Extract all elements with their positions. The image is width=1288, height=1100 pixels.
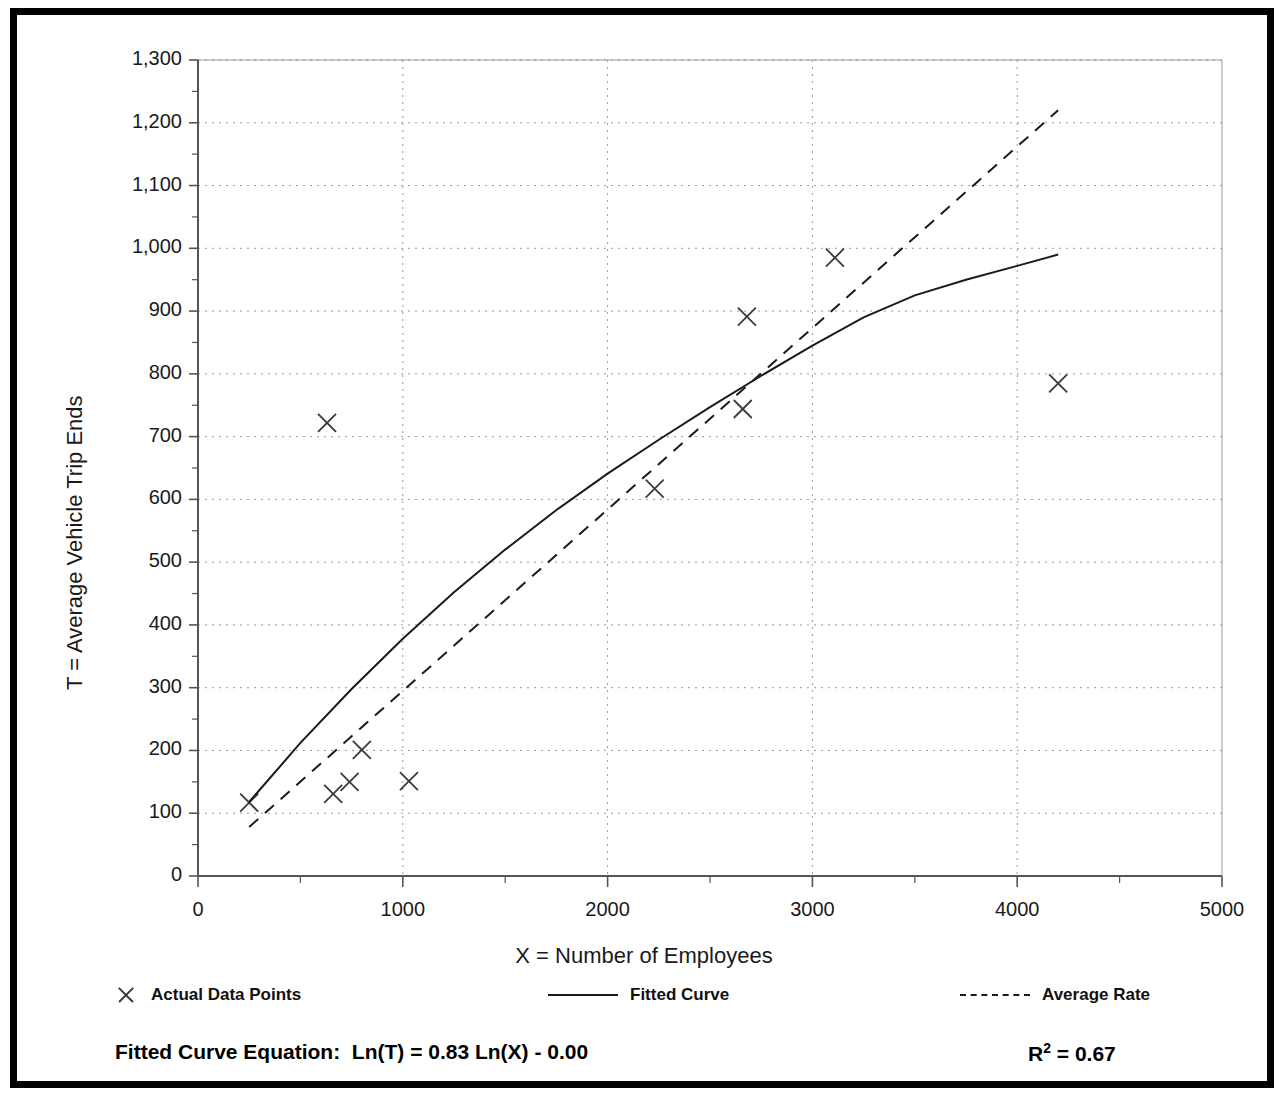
y-tick-label: 1,300 xyxy=(72,47,182,70)
data-point-marker xyxy=(318,414,336,432)
data-point-marker xyxy=(1049,374,1067,392)
y-tick-label: 1,200 xyxy=(72,110,182,133)
y-tick-label: 700 xyxy=(72,424,182,447)
x-tick-label: 5000 xyxy=(1172,898,1272,921)
axis-ticks xyxy=(189,60,1222,887)
y-tick-label: 500 xyxy=(72,549,182,572)
dashed-line-icon xyxy=(960,986,1030,1004)
y-tick-label: 1,100 xyxy=(72,173,182,196)
data-point-marker xyxy=(353,741,371,759)
x-tick-label: 1000 xyxy=(353,898,453,921)
data-point-marker xyxy=(738,308,756,326)
y-tick-label: 0 xyxy=(72,863,182,886)
fitted-curve-equation: Fitted Curve Equation: Ln(T) = 0.83 Ln(X… xyxy=(115,1040,588,1064)
r-squared-tail: = 0.67 xyxy=(1051,1042,1116,1065)
series-line-average-rate xyxy=(249,110,1058,827)
r-squared-value: R2 = 0.67 xyxy=(1028,1040,1116,1066)
y-tick-label: 300 xyxy=(72,675,182,698)
y-tick-label: 1,000 xyxy=(72,235,182,258)
data-point-marker xyxy=(646,480,664,498)
y-tick-label: 100 xyxy=(72,800,182,823)
x-tick-label: 0 xyxy=(148,898,248,921)
legend-item-fitted-curve: Fitted Curve xyxy=(548,985,729,1005)
legend-label-actual-data-points: Actual Data Points xyxy=(151,985,301,1005)
scatter-plot-figure xyxy=(0,0,1288,1100)
data-point-marker xyxy=(240,794,258,812)
x-axis-title: X = Number of Employees xyxy=(0,943,1288,969)
series-line-fitted-curve xyxy=(249,255,1058,802)
y-tick-label: 400 xyxy=(72,612,182,635)
legend-item-average-rate: Average Rate xyxy=(960,985,1150,1005)
legend-label-fitted-curve: Fitted Curve xyxy=(630,985,729,1005)
data-series xyxy=(240,110,1067,827)
data-point-marker xyxy=(341,773,359,791)
data-point-marker xyxy=(734,400,752,418)
y-tick-label: 800 xyxy=(72,361,182,384)
y-tick-label: 200 xyxy=(72,737,182,760)
y-axis-title: T = Average Vehicle Trip Ends xyxy=(62,395,88,690)
y-tick-label: 600 xyxy=(72,486,182,509)
r-squared-exponent: 2 xyxy=(1043,1040,1051,1056)
chart-footnote: Fitted Curve Equation: Ln(T) = 0.83 Ln(X… xyxy=(0,1040,1288,1080)
data-point-marker xyxy=(826,249,844,267)
x-tick-label: 2000 xyxy=(558,898,658,921)
x-tick-label: 4000 xyxy=(967,898,1067,921)
solid-line-icon xyxy=(548,986,618,1004)
x-marker-icon xyxy=(115,986,139,1004)
legend-item-actual-data-points: Actual Data Points xyxy=(115,985,301,1005)
chart-legend: Actual Data Points Fitted Curve Average … xyxy=(0,985,1288,1019)
chart-page: 01002003004005006007008009001,0001,1001,… xyxy=(0,0,1288,1100)
data-point-marker xyxy=(324,785,342,803)
x-tick-label: 3000 xyxy=(762,898,862,921)
legend-label-average-rate: Average Rate xyxy=(1042,985,1150,1005)
r-squared-base: R xyxy=(1028,1042,1043,1065)
y-tick-label: 900 xyxy=(72,298,182,321)
grid-lines xyxy=(198,60,1222,876)
axis-lines xyxy=(198,60,1222,876)
